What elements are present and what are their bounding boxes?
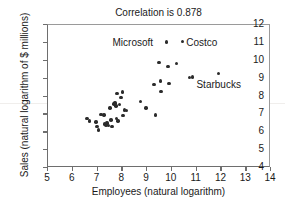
x-tick-label: 5 — [39, 173, 55, 183]
x-tick-label: 12 — [212, 173, 228, 183]
x-tick-label: 13 — [237, 173, 253, 183]
x-tick-label: 9 — [138, 173, 154, 183]
point-annotation: Starbucks — [196, 79, 240, 90]
x-tick-mark — [220, 167, 221, 171]
x-tick-label: 8 — [113, 173, 129, 183]
x-tick-label: 7 — [89, 173, 105, 183]
x-tick-mark — [72, 167, 73, 171]
x-tick-label: 6 — [64, 173, 80, 183]
x-tick-label: 11 — [188, 173, 204, 183]
x-tick-mark — [171, 167, 172, 171]
scatter-plot-figure: Correlation is 0.878 456789101112 567891… — [0, 0, 285, 205]
chart-title: Correlation is 0.878 — [47, 7, 270, 19]
x-tick-label: 14 — [262, 173, 278, 183]
y-axis-label: Sales (natural logarithm of $ millions) — [19, 5, 31, 185]
x-tick-mark — [121, 167, 122, 171]
x-tick-mark — [245, 167, 246, 171]
x-tick-mark — [97, 167, 98, 171]
x-tick-mark — [270, 167, 271, 171]
x-tick-mark — [47, 167, 48, 171]
point-annotation: Microsoft — [113, 37, 154, 48]
plot-area: 456789101112 567891011121314 MicrosoftCo… — [47, 24, 270, 167]
x-tick-label: 10 — [163, 173, 179, 183]
x-axis-label: Employees (natural logarithm) — [47, 186, 270, 198]
x-tick-mark — [146, 167, 147, 171]
point-annotation: Costco — [186, 37, 217, 48]
annotations-layer: MicrosoftCostcoStarbucks — [47, 24, 270, 167]
x-tick-mark — [196, 167, 197, 171]
